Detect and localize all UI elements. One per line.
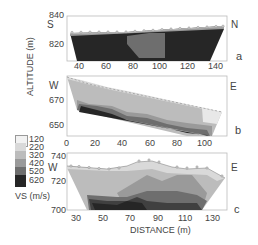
- panel-c-right-direction: E: [231, 163, 238, 173]
- panel-c-ytick: 700: [51, 206, 66, 215]
- panel-a-xtick: 100: [152, 62, 167, 71]
- panel-c-left-direction: W: [48, 163, 57, 173]
- panel-a-xtick: 80: [128, 62, 138, 71]
- x-axis-label: DISTANCE (m): [130, 225, 191, 235]
- panel-b-xtick: 80: [172, 139, 182, 148]
- panel-b-xtick: 40: [117, 139, 127, 148]
- panel-c-xtick: 50: [98, 214, 108, 223]
- panel-c-xtick: 90: [153, 214, 163, 223]
- panel-b-xtick: 0: [64, 139, 69, 148]
- panel-a-letter: a: [236, 51, 242, 62]
- panel-c-xtick: 110: [178, 214, 192, 223]
- panel-a-ytick: 840: [49, 11, 64, 20]
- panel-a-plot: [67, 16, 227, 61]
- panel-b-right-direction: E: [230, 82, 237, 92]
- panel-b-ytick: 670: [49, 96, 64, 105]
- y-axis-label: ALTITUDE (m): [25, 37, 35, 96]
- panel-b-plot: [67, 76, 227, 136]
- panel-c-xtick: 30: [71, 214, 81, 223]
- panel-c-ytick: 740: [51, 152, 66, 161]
- panel-b-xtick: 20: [90, 139, 100, 148]
- panel-c-plot: [67, 153, 227, 210]
- panel-a-left-direction: S: [47, 20, 54, 30]
- panel-c-letter: c: [234, 204, 240, 215]
- panel-b-left-direction: W: [49, 81, 58, 91]
- panel-a-xtick: 60: [101, 62, 111, 71]
- panel-a-ytick: 820: [49, 40, 64, 49]
- panel-c-xtick: 130: [205, 214, 220, 223]
- panel-b-ytick: 650: [49, 121, 64, 130]
- panel-a-xtick: 120: [180, 62, 195, 71]
- panel-b-letter: b: [235, 125, 241, 136]
- panel-b-xtick: 100: [197, 139, 212, 148]
- legend-title: VS (m/s): [15, 192, 50, 201]
- panel-c-xtick: 70: [125, 214, 135, 223]
- panel-c-ytick: 720: [51, 177, 66, 186]
- panel-b-xtick: 60: [145, 139, 155, 148]
- legend-label: 620: [29, 176, 44, 185]
- panel-a-right-direction: N: [231, 20, 238, 30]
- panel-a-xtick: 40: [74, 62, 84, 71]
- panel-a-xtick: 140: [208, 62, 223, 71]
- legend-swatch-620: [15, 175, 26, 187]
